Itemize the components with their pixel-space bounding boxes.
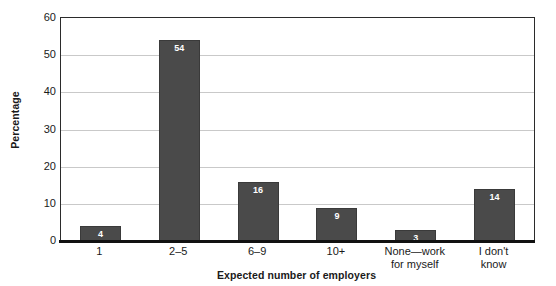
y-axis-tick-labels: 6050403020100 [28, 0, 56, 286]
x-tick-label: 1 [60, 245, 139, 258]
bar: 9 [316, 208, 357, 241]
bar: 16 [238, 182, 279, 241]
y-tick-label: 40 [30, 86, 56, 96]
y-tick-label: 60 [30, 12, 56, 22]
bar-value-label: 14 [475, 192, 514, 202]
bar-chart-figure: Percentage 6050403020100 454169314 12–56… [0, 0, 556, 286]
y-tick-label: 20 [30, 161, 56, 171]
bar: 4 [80, 226, 121, 241]
y-axis-title-label: Percentage [9, 91, 21, 149]
y-axis-title: Percentage [0, 0, 30, 240]
x-axis-line [59, 240, 535, 243]
bar-value-label: 16 [239, 185, 278, 195]
bar: 14 [474, 189, 515, 241]
x-tick-label: I don't know [454, 245, 533, 270]
x-tick-label: None—work for myself [375, 245, 454, 270]
x-tick-label: 2–5 [139, 245, 218, 258]
bar-value-label: 9 [317, 211, 356, 221]
bar-value-label: 54 [160, 43, 199, 53]
x-tick-label: 10+ [297, 245, 376, 258]
y-tick-label: 50 [30, 49, 56, 59]
plot-area: 454169314 [60, 17, 535, 241]
bar: 54 [159, 40, 200, 241]
y-tick-label: 10 [30, 198, 56, 208]
x-tick-label: 6–9 [218, 245, 297, 258]
bars-layer: 454169314 [61, 18, 534, 241]
y-tick-label: 0 [30, 235, 56, 245]
bar-value-label: 4 [81, 229, 120, 239]
x-axis-title: Expected number of employers [60, 269, 533, 281]
y-tick-label: 30 [30, 124, 56, 134]
